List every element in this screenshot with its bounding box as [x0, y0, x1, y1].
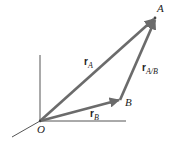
point-O-label: O — [37, 124, 45, 135]
vector-rAB — [120, 20, 155, 100]
vector-diagram: A B O rA rB rA/B — [0, 0, 176, 146]
vector-rAB-label: rA/B — [142, 63, 158, 76]
vector-rA-label: rA — [84, 57, 93, 70]
point-A-dot — [154, 17, 157, 20]
point-A-label: A — [157, 3, 164, 14]
point-O-dot — [39, 120, 41, 122]
vector-rB-label: rB — [90, 109, 99, 122]
point-B-label: B — [125, 97, 132, 108]
diagonal-axis — [12, 121, 40, 137]
